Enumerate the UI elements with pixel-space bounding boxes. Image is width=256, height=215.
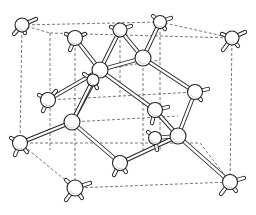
cell-edge xyxy=(20,25,22,143)
atom xyxy=(188,85,209,101)
atom xyxy=(222,31,245,50)
cell-edge xyxy=(230,38,232,182)
bond xyxy=(72,122,120,163)
atom xyxy=(153,16,171,30)
atom xyxy=(84,74,99,88)
atom xyxy=(39,91,56,111)
atom xyxy=(170,128,186,144)
atom xyxy=(64,114,80,130)
atom xyxy=(221,175,244,195)
atom xyxy=(111,23,131,37)
cell-edge xyxy=(22,22,160,25)
atom xyxy=(135,50,151,66)
atoms xyxy=(11,16,245,201)
bond xyxy=(143,58,195,92)
atom xyxy=(113,156,128,176)
cell-edge xyxy=(48,92,195,100)
cell-edge xyxy=(75,182,230,188)
bond xyxy=(100,70,155,110)
atom xyxy=(14,18,36,34)
diamond-cubic-lattice-diagram xyxy=(0,0,256,215)
atom xyxy=(66,180,90,200)
bond xyxy=(178,136,230,182)
atom xyxy=(11,136,28,156)
